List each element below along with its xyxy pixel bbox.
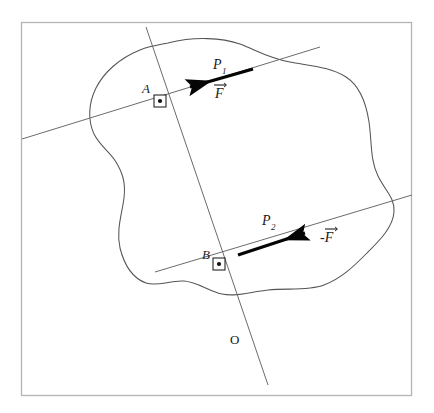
label-point-a: A: [141, 81, 150, 96]
force-couple-diagram: P 1 F P 2 -F A B O: [0, 0, 434, 413]
label-force-negative-f: -F: [320, 230, 334, 245]
line-of-action-p2: [155, 195, 412, 272]
label-p1: P: [212, 57, 222, 72]
label-p2-subscript: 2: [271, 222, 276, 232]
label-p2: P: [261, 213, 271, 228]
label-force-f: F: [214, 86, 224, 101]
rigid-body-outline: [90, 39, 394, 295]
label-point-b: B: [202, 247, 210, 262]
label-p1-group: P 1: [212, 57, 227, 76]
point-marker-b: [213, 258, 225, 270]
line-of-action-p1: [22, 47, 320, 139]
figure-canvas: P 1 F P 2 -F A B O: [0, 0, 434, 413]
label-p2-group: P 2: [261, 213, 276, 232]
label-force-f-group: F: [214, 83, 226, 101]
label-origin-o: O: [230, 332, 239, 347]
point-marker-a: [154, 95, 166, 107]
label-force-negative-f-group: -F: [320, 227, 337, 245]
label-p1-subscript: 1: [222, 66, 227, 76]
